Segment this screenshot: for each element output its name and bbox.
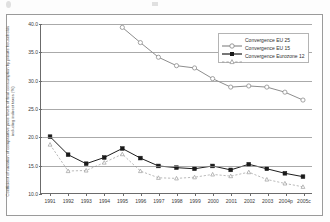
y-axis-tick-mark	[39, 52, 42, 53]
y-axis-tick-label: 10.0	[28, 191, 38, 197]
y-axis-tick-mark	[39, 109, 42, 110]
x-axis-tick-mark	[104, 193, 105, 196]
y-axis-tick-mark	[39, 194, 42, 195]
data-point-marker	[102, 161, 106, 165]
gridline	[41, 81, 312, 82]
y-axis-title: Coefficient of variation of comparative …	[5, 20, 15, 202]
x-axis-tick-mark	[177, 193, 178, 196]
scan-artifact-dot	[6, 1, 11, 8]
gridline	[41, 137, 312, 138]
x-axis-tick-mark	[50, 193, 51, 196]
data-point-marker	[120, 25, 124, 29]
data-point-marker	[247, 84, 251, 88]
data-point-marker	[283, 181, 287, 185]
data-point-marker	[138, 156, 142, 160]
x-axis-tick-label: 2004p	[279, 198, 293, 204]
y-axis-tick-mark	[39, 166, 42, 167]
y-axis-title-container: Coefficient of variation of comparative …	[2, 16, 18, 214]
legend-label: Convergence Eurozone 12	[245, 52, 305, 60]
x-axis-tick-label: 1991	[45, 198, 56, 204]
legend-item: Convergence EU 15	[221, 44, 305, 52]
data-point-marker	[48, 143, 52, 147]
x-axis-tick-label: 1996	[135, 198, 146, 204]
data-point-marker	[84, 168, 88, 172]
legend-item: Convergence EU 25	[221, 36, 305, 44]
x-axis-tick-label: 1998	[171, 198, 182, 204]
y-axis-tick-label: 40.0	[28, 21, 38, 27]
data-point-marker	[156, 55, 160, 59]
gridline	[41, 24, 312, 25]
x-axis-tick-label: 1999	[190, 198, 201, 204]
x-axis-tick-label: 2002	[244, 198, 255, 204]
x-axis-tick-mark	[141, 193, 142, 196]
x-axis-tick-mark	[159, 193, 160, 196]
data-point-marker	[229, 85, 233, 89]
x-axis-tick-mark	[86, 193, 87, 196]
data-point-marker	[192, 66, 196, 70]
chart-screenshot: Coefficient of variation of comparative …	[0, 0, 330, 222]
data-point-marker	[265, 177, 269, 181]
scan-artifact-mark	[152, 2, 158, 6]
data-point-marker	[265, 85, 269, 89]
y-axis-tick-label: 30.0	[28, 78, 38, 84]
data-point-marker	[175, 176, 179, 180]
legend-label: Convergence EU 25	[245, 36, 290, 44]
data-point-marker	[229, 168, 233, 172]
x-axis-tick-label: 2001	[226, 198, 237, 204]
x-axis-tick-mark	[123, 193, 124, 196]
gridline	[41, 109, 312, 110]
x-axis-tick-mark	[68, 193, 69, 196]
x-axis-tick-mark	[231, 193, 232, 196]
data-point-marker	[66, 169, 70, 173]
data-point-marker	[301, 98, 305, 102]
x-axis-tick-label: 2000	[208, 198, 219, 204]
data-point-marker	[120, 152, 124, 156]
legend-key-icon	[221, 36, 243, 44]
legend-item: Convergence Eurozone 12	[221, 52, 305, 60]
x-axis-tick-label: 1994	[99, 198, 110, 204]
data-point-marker	[193, 167, 197, 171]
x-axis-tick-mark	[268, 193, 269, 196]
data-point-marker	[157, 176, 161, 180]
data-point-marker	[283, 171, 287, 175]
y-axis-tick-label: 25.0	[28, 106, 38, 112]
y-axis-tick-mark	[39, 81, 42, 82]
x-axis-tick-mark	[304, 193, 305, 196]
x-axis-tick-label: 2003	[262, 198, 273, 204]
x-axis-tick-mark	[213, 193, 214, 196]
data-point-marker	[265, 167, 269, 171]
x-axis-tick-label: 2005c	[297, 198, 311, 204]
data-point-marker	[66, 153, 70, 157]
data-point-marker	[102, 156, 106, 160]
x-axis-tick-label: 1993	[81, 198, 92, 204]
data-point-marker	[301, 175, 305, 179]
data-point-marker	[301, 185, 305, 189]
y-axis-tick-label: 15.0	[28, 163, 38, 169]
data-point-marker	[193, 175, 197, 179]
data-point-marker	[174, 64, 178, 68]
data-point-marker	[247, 170, 251, 174]
y-axis-tick-mark	[39, 24, 42, 25]
chart-legend: Convergence EU 25Convergence EU 15Conver…	[218, 33, 309, 63]
x-axis-tick-label: 1995	[117, 198, 128, 204]
data-point-marker	[283, 90, 287, 94]
y-axis-tick-label: 20.0	[28, 134, 38, 140]
x-axis-tick-mark	[286, 193, 287, 196]
legend-key-icon	[221, 52, 243, 60]
x-axis-tick-mark	[250, 193, 251, 196]
legend-label: Convergence EU 15	[245, 44, 290, 52]
x-axis-tick-label: 1992	[63, 198, 74, 204]
y-axis-tick-label: 35.0	[28, 49, 38, 55]
data-point-marker	[138, 41, 142, 45]
gridline	[41, 166, 312, 167]
data-point-marker	[229, 174, 233, 178]
legend-key-icon	[221, 44, 243, 52]
data-point-marker	[120, 147, 124, 151]
y-axis-tick-mark	[39, 137, 42, 138]
data-point-marker	[211, 172, 215, 176]
x-axis-tick-mark	[195, 193, 196, 196]
x-axis-tick-label: 1997	[153, 198, 164, 204]
